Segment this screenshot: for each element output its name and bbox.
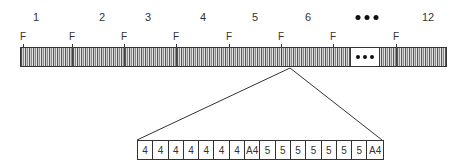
slot-cell: 5: [322, 141, 337, 159]
slot-cell: 5: [291, 141, 306, 159]
expanded-slot-row: 4444444A45555555A4: [137, 140, 384, 160]
slot-cell: A4: [367, 141, 382, 159]
slot-cell: 4: [199, 141, 214, 159]
slot-cell: 5: [352, 141, 367, 159]
slot-cell: 4: [169, 141, 184, 159]
slot-cell: A4: [245, 141, 260, 159]
slot-cell: 5: [276, 141, 291, 159]
slot-cell: 5: [260, 141, 275, 159]
slot-cell: 4: [230, 141, 245, 159]
slot-cell: 4: [184, 141, 199, 159]
slot-cell: 5: [337, 141, 352, 159]
slot-cell: 4: [153, 141, 168, 159]
slot-cell: 4: [214, 141, 229, 159]
slot-cell: 4: [138, 141, 153, 159]
slot-cell: 5: [306, 141, 321, 159]
